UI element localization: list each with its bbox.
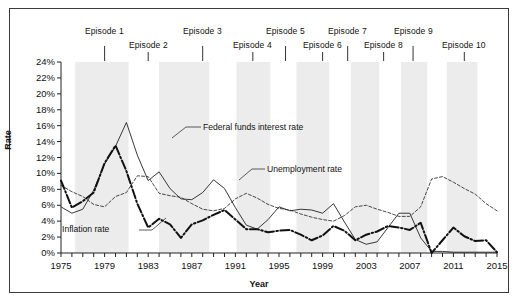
- x-tick-label: 1991: [225, 260, 246, 271]
- x-axis-ticks: 1975197919831987199119951999200320072011…: [50, 253, 507, 271]
- episode-label-7: Episode 7: [328, 26, 367, 36]
- y-tick-label: 0%: [41, 247, 55, 258]
- y-axis-ticks: 0%2%4%6%8%10%12%14%16%18%20%22%24%: [36, 56, 61, 258]
- chart-figure: 0%2%4%6%8%10%12%14%16%18%20%22%24%197519…: [0, 0, 518, 302]
- y-tick-label: 4%: [41, 215, 55, 226]
- y-tick-label: 24%: [36, 56, 56, 67]
- y-tick-label: 16%: [36, 120, 56, 131]
- x-tick-label: 1987: [181, 260, 202, 271]
- y-tick-label: 12%: [36, 152, 56, 163]
- x-tick-label: 1999: [312, 260, 333, 271]
- episode-band: [447, 62, 478, 253]
- episode-band: [351, 62, 379, 253]
- y-tick-label: 22%: [36, 72, 56, 83]
- episode-label-1: Episode 1: [85, 26, 124, 36]
- annotation-federal-funds: Federal funds interest rate: [203, 122, 303, 132]
- y-tick-label: 8%: [41, 183, 55, 194]
- x-tick-label: 1975: [50, 260, 71, 271]
- episode-band: [296, 62, 329, 253]
- episode-label-2: Episode 2: [129, 40, 168, 50]
- y-tick-label: 6%: [41, 199, 55, 210]
- y-tick-label: 2%: [41, 231, 55, 242]
- annotation-unemployment: Unemployment rate: [267, 164, 342, 174]
- episode-label-6: Episode 6: [303, 40, 342, 50]
- x-tick-label: 2015: [486, 260, 507, 271]
- y-tick-label: 20%: [36, 88, 56, 99]
- y-axis-title: Rate: [3, 130, 13, 150]
- y-tick-label: 18%: [36, 104, 56, 115]
- x-tick-label: 2007: [399, 260, 420, 271]
- x-tick-label: 1979: [94, 260, 115, 271]
- episode-label-9: Episode 9: [394, 26, 433, 36]
- episode-label-5: Episode 5: [266, 26, 305, 36]
- x-tick-label: 1983: [138, 260, 159, 271]
- y-tick-label: 10%: [36, 167, 56, 178]
- episode-label-3: Episode 3: [183, 26, 222, 36]
- x-tick-label: 2011: [443, 260, 463, 271]
- x-tick-label: 1995: [268, 260, 289, 271]
- episode-bands: [75, 62, 477, 253]
- episode-band: [401, 62, 427, 253]
- episode-label-4: Episode 4: [233, 40, 272, 50]
- episode-label-8: Episode 8: [364, 40, 403, 50]
- x-axis-title: Year: [0, 279, 518, 289]
- episode-label-10: Episode 10: [442, 40, 486, 50]
- x-tick-label: 2003: [356, 260, 377, 271]
- y-tick-label: 14%: [36, 136, 56, 147]
- annotation-inflation: Inflation rate: [62, 224, 109, 234]
- episode-band: [159, 62, 209, 253]
